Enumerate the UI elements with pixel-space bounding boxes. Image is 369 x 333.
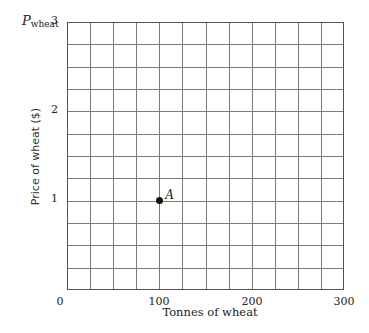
grid-line-horizontal [68, 156, 343, 157]
x-axis-title: Tonnes of wheat [150, 305, 270, 319]
plot-area [67, 22, 344, 290]
grid-line-horizontal [68, 223, 343, 224]
grid-line-horizontal [68, 67, 343, 68]
y-tick-2: 2 [38, 103, 58, 116]
y-tick-1: 1 [38, 192, 58, 205]
x-tick-300: 300 [324, 295, 364, 308]
grid-line-horizontal [68, 89, 343, 90]
data-point-label: A [165, 188, 174, 202]
grid-line-horizontal [68, 134, 343, 135]
grid-line-horizontal [68, 111, 343, 112]
y-variable-symbol: P [22, 13, 31, 28]
grid-line-horizontal [68, 178, 343, 179]
x-tick-0: 0 [40, 295, 80, 308]
data-point-a [156, 197, 163, 204]
y-tick-3: 3 [38, 14, 58, 27]
grid-line-horizontal [68, 201, 343, 202]
grid-line-horizontal [68, 245, 343, 246]
grid-line-horizontal [68, 268, 343, 269]
grid-line-horizontal [68, 44, 343, 45]
